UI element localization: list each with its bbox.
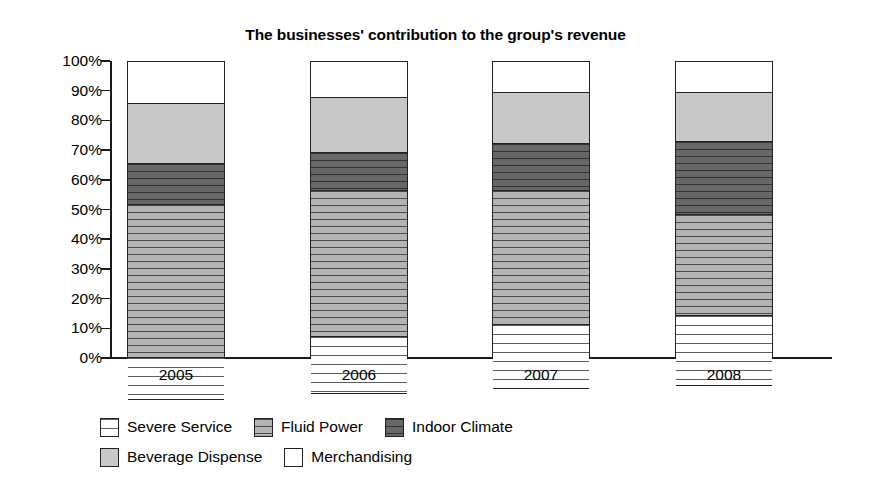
legend-item-severe-service[interactable]: Severe Service bbox=[100, 418, 232, 437]
y-axis-tick bbox=[101, 179, 110, 181]
bar-2005[interactable] bbox=[127, 61, 225, 358]
legend-label-merchandising: Merchandising bbox=[311, 448, 412, 466]
y-axis-tick-label: 80% bbox=[32, 112, 102, 127]
y-axis-tick bbox=[101, 90, 110, 92]
y-axis-tick bbox=[101, 238, 110, 240]
plot-area: 0%10%20%30%40%50%60%70%80%90%100% bbox=[110, 61, 830, 358]
y-axis-tick bbox=[101, 120, 110, 122]
legend-swatch-severe-service bbox=[100, 418, 119, 437]
segment-fluid-power-2006[interactable] bbox=[311, 190, 407, 336]
segment-merchandising-2005[interactable] bbox=[128, 61, 224, 103]
legend-row: Beverage DispenseMerchandising bbox=[100, 442, 800, 472]
y-axis-tick bbox=[101, 328, 110, 330]
legend-label-beverage-dispense: Beverage Dispense bbox=[127, 448, 262, 466]
stacked-bar-chart: The businesses' contribution to the grou… bbox=[0, 0, 871, 494]
y-axis-tick bbox=[101, 298, 110, 300]
y-axis-tick-label: 90% bbox=[32, 83, 102, 98]
segment-indoor-climate-2008[interactable] bbox=[676, 141, 772, 214]
legend-item-beverage-dispense[interactable]: Beverage Dispense bbox=[100, 448, 262, 467]
y-axis-tick-label: 60% bbox=[32, 172, 102, 187]
x-axis-label-2005: 2005 bbox=[106, 366, 246, 384]
y-axis-tick bbox=[101, 60, 110, 62]
chart-legend: Severe ServiceFluid PowerIndoor Climate … bbox=[100, 412, 800, 472]
y-axis-tick-label: 20% bbox=[32, 291, 102, 306]
legend-swatch-merchandising bbox=[284, 448, 303, 467]
segment-beverage-dispense-2005[interactable] bbox=[128, 103, 224, 164]
bar-2007[interactable] bbox=[492, 61, 590, 358]
segment-beverage-dispense-2006[interactable] bbox=[311, 97, 407, 152]
segment-beverage-dispense-2007[interactable] bbox=[493, 92, 589, 142]
chart-title: The businesses' contribution to the grou… bbox=[0, 26, 871, 44]
y-axis-tick-label: 50% bbox=[32, 202, 102, 217]
segment-merchandising-2008[interactable] bbox=[676, 61, 772, 92]
legend-swatch-indoor-climate bbox=[385, 418, 404, 437]
legend-item-indoor-climate[interactable]: Indoor Climate bbox=[385, 418, 513, 437]
segment-indoor-climate-2006[interactable] bbox=[311, 152, 407, 191]
y-axis-tick-label: 40% bbox=[32, 231, 102, 246]
segment-fluid-power-2008[interactable] bbox=[676, 214, 772, 315]
segment-beverage-dispense-2008[interactable] bbox=[676, 92, 772, 141]
x-axis-label-2007: 2007 bbox=[471, 366, 611, 384]
legend-row: Severe ServiceFluid PowerIndoor Climate bbox=[100, 412, 800, 442]
legend-label-fluid-power: Fluid Power bbox=[281, 418, 363, 436]
legend-swatch-beverage-dispense bbox=[100, 448, 119, 467]
legend-label-severe-service: Severe Service bbox=[127, 418, 232, 436]
legend-item-fluid-power[interactable]: Fluid Power bbox=[254, 418, 363, 437]
y-axis-tick bbox=[101, 149, 110, 151]
x-axis-label-2008: 2008 bbox=[654, 366, 794, 384]
segment-indoor-climate-2005[interactable] bbox=[128, 163, 224, 203]
y-axis-tick-label: 0% bbox=[32, 350, 102, 365]
y-axis-tick bbox=[101, 209, 110, 211]
bar-2008[interactable] bbox=[675, 61, 773, 358]
y-axis-tick-label: 30% bbox=[32, 261, 102, 276]
segment-fluid-power-2005[interactable] bbox=[128, 204, 224, 357]
y-axis-tick-label: 100% bbox=[32, 53, 102, 68]
legend-item-merchandising[interactable]: Merchandising bbox=[284, 448, 412, 467]
segment-merchandising-2007[interactable] bbox=[493, 61, 589, 92]
segment-merchandising-2006[interactable] bbox=[311, 61, 407, 97]
segment-indoor-climate-2007[interactable] bbox=[493, 143, 589, 191]
legend-label-indoor-climate: Indoor Climate bbox=[412, 418, 513, 436]
segment-fluid-power-2007[interactable] bbox=[493, 190, 589, 324]
legend-swatch-fluid-power bbox=[254, 418, 273, 437]
y-axis-tick bbox=[101, 268, 110, 270]
x-axis-label-2006: 2006 bbox=[289, 366, 429, 384]
bar-2006[interactable] bbox=[310, 61, 408, 358]
y-axis-tick-label: 10% bbox=[32, 320, 102, 335]
segment-severe-service-2006[interactable] bbox=[311, 336, 407, 394]
y-axis-tick-label: 70% bbox=[32, 142, 102, 157]
y-axis-tick bbox=[101, 357, 110, 359]
